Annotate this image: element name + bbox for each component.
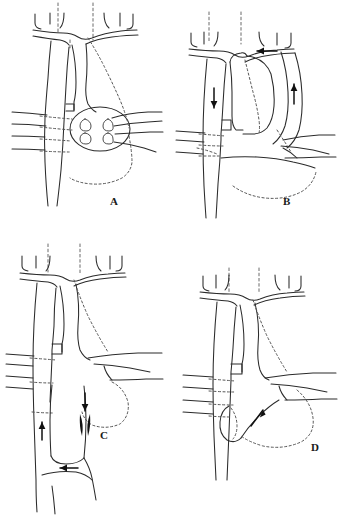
branch-far-right <box>295 276 301 291</box>
branch-mid-right <box>96 256 101 271</box>
left-intercostal-3 <box>12 136 45 137</box>
branch-far-right <box>127 14 133 29</box>
descending-down-arrow <box>211 88 218 108</box>
arch-inner-loop <box>230 62 243 130</box>
right-branch-upper <box>283 135 335 140</box>
right-branch-upper-b <box>114 121 162 126</box>
vessel-stump-right-upper <box>103 119 113 131</box>
vessel-stump-right-lower <box>103 133 113 144</box>
left-intercostal-3 <box>183 400 213 402</box>
lower-descending-segment <box>52 486 55 514</box>
vessel-stump-left-lower <box>80 133 91 144</box>
panel-c: C <box>0 230 173 518</box>
panel-b-label: B <box>283 195 291 207</box>
panel-c-label: C <box>100 429 108 441</box>
branch-far-right <box>116 256 122 271</box>
collateral-loop-bottom <box>51 456 84 464</box>
descending-aorta-right-wall <box>227 307 236 480</box>
branch-mid-left <box>46 256 50 271</box>
branch-far-left <box>191 33 197 47</box>
bottom-leftward-arrow <box>60 465 78 472</box>
descending-aorta-left-wall <box>45 41 52 206</box>
upper-transverse-top <box>20 273 125 281</box>
branch-far-left <box>203 276 209 291</box>
right-branch-upper <box>265 373 336 378</box>
descending-aorta-right-wall <box>216 64 226 218</box>
branch-far-left <box>22 256 28 271</box>
panel-a-drawing: A <box>0 0 173 230</box>
left-intercostal-3 <box>6 376 33 378</box>
panel-c-drawing: C <box>0 230 173 518</box>
branch-mid-right <box>104 13 109 28</box>
right-limb-down-arrow <box>82 393 89 411</box>
panel-b-drawing: B <box>173 0 346 230</box>
stenosis-marker-right <box>87 414 90 436</box>
ascending-aorta <box>60 286 64 352</box>
descending-aorta-left-wall <box>203 59 207 218</box>
branch-mid-right <box>275 275 280 290</box>
leftward-arch-arrow <box>257 48 277 55</box>
panel-a: A <box>0 0 173 230</box>
left-intercostal-1 <box>176 131 205 133</box>
panel-d-label: D <box>311 441 319 453</box>
right-branch-fork <box>104 366 112 380</box>
collateral-loop-outlet <box>84 458 96 500</box>
panel-b: B <box>173 0 346 230</box>
vessel-stump-left-upper <box>80 119 91 131</box>
branch-far-left <box>35 14 41 29</box>
arch-outer-loop <box>243 56 274 134</box>
right-ascending-limb-outer <box>273 52 288 144</box>
branch-mid-right <box>259 32 264 46</box>
upper-transverse-vessel-bottom-right <box>86 35 138 44</box>
arch-outer-curve <box>76 284 90 360</box>
aortic-step-contour <box>231 364 242 374</box>
left-intercostal-2 <box>6 364 33 366</box>
upper-transverse-bottom-right <box>254 296 305 305</box>
descending-aorta-left-wall <box>33 283 37 512</box>
upper-transverse-bottom-left <box>200 298 237 306</box>
branch-mid-left <box>60 13 64 28</box>
left-intercostal-1 <box>6 354 34 356</box>
dotted-lower-ellipse <box>241 390 313 447</box>
right-branch-fork <box>279 386 287 400</box>
aortic-step-contour <box>52 344 62 354</box>
lower-aorta-continuation <box>241 400 279 438</box>
stenosis-marker-left <box>80 414 83 436</box>
left-intercostal-3 <box>176 152 203 154</box>
right-branch-lower <box>285 399 337 400</box>
descending-aorta-right-wall <box>57 47 69 206</box>
upper-transverse-bottom-left <box>20 279 57 287</box>
branch-mid-left <box>225 275 229 290</box>
right-branch-upper <box>88 353 162 358</box>
dotted-lower-loop <box>233 172 316 198</box>
upper-transverse-bottom-right <box>74 277 126 286</box>
right-branch-upper-a <box>112 112 162 118</box>
left-limb-up-arrow <box>39 422 46 440</box>
collateral-loop-outlet-lower <box>42 471 92 480</box>
left-intercostal-4 <box>12 149 45 150</box>
oval-silhouette <box>70 107 130 151</box>
right-ascending-up-arrow <box>291 84 298 104</box>
oblique-flow-arrow <box>251 410 266 426</box>
panel-d: D <box>173 230 346 518</box>
right-branch-lower-a <box>115 132 163 134</box>
left-intercostal-1 <box>12 112 47 115</box>
right-branch-lower-b <box>114 142 156 152</box>
aortic-step-contour <box>66 104 74 111</box>
left-intercostal-4 <box>6 387 33 389</box>
branch-mid-left <box>214 32 218 46</box>
left-intercostal-2 <box>176 140 204 142</box>
dotted-crossing-3 <box>32 412 54 413</box>
aortic-step-contour <box>222 120 231 130</box>
dotted-crossing-4 <box>209 416 231 417</box>
panel-d-drawing: D <box>173 230 346 518</box>
dotted-arch-interior <box>245 60 260 134</box>
ascending-aorta-arch <box>72 45 76 110</box>
panel-a-label: A <box>110 195 118 207</box>
dotted-diagonal <box>197 148 217 154</box>
left-intercostal-2 <box>12 124 46 126</box>
left-intercostal-2 <box>183 387 213 389</box>
branch-far-right <box>285 33 291 48</box>
right-branch-lower <box>110 379 163 380</box>
arch-outer-curve <box>86 44 96 112</box>
